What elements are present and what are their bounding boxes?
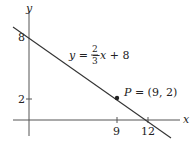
point-p [115, 96, 119, 100]
svg-text:3: 3 [92, 56, 98, 66]
equation-label: y = − 2 3 x + 8 [68, 44, 129, 66]
point-p-label: P = (9, 2) [123, 86, 177, 99]
coordinate-plane: y x 8 2 9 12 P = (9, 2) y = − 2 3 x + 8 [0, 0, 194, 141]
x-tick-label-9: 9 [113, 125, 120, 138]
x-axis-label: x [183, 113, 190, 126]
svg-text:2: 2 [92, 44, 98, 54]
y-tick-label-2: 2 [18, 93, 25, 106]
y-axis-label: y [25, 2, 33, 15]
svg-text:x + 8: x + 8 [100, 49, 129, 62]
x-tick-label-12: 12 [141, 125, 155, 138]
